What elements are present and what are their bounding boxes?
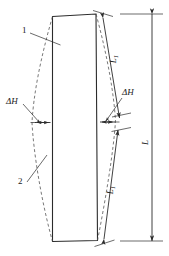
label-delta-h-right: ΔH	[122, 88, 134, 97]
diagram-canvas	[0, 0, 169, 256]
label-length-upper-subscript: 1	[112, 55, 119, 58]
dim-length-upper	[93, 11, 131, 119]
label-length-lower-main: L	[105, 189, 115, 194]
label-callout-2: 2	[18, 177, 23, 186]
label-length-upper-main: L	[108, 58, 118, 63]
plate-outline	[53, 14, 98, 242]
label-callout-1: 1	[22, 26, 27, 35]
curve-left	[32, 17, 53, 242]
label-length-lower-subscript: 1	[109, 186, 116, 189]
label-length-lower: L1	[106, 186, 116, 194]
leader-delta-h-left	[23, 104, 40, 123]
leader-callout-2	[27, 155, 47, 182]
label-length-total: L	[141, 140, 150, 145]
technical-diagram: ΔH ΔH 1 2 L1 L1 L	[0, 0, 169, 256]
curve-right	[96, 14, 116, 241]
dim-length-total	[120, 14, 163, 241]
label-delta-h-left: ΔH	[6, 97, 18, 106]
label-length-upper: L1	[109, 55, 119, 63]
